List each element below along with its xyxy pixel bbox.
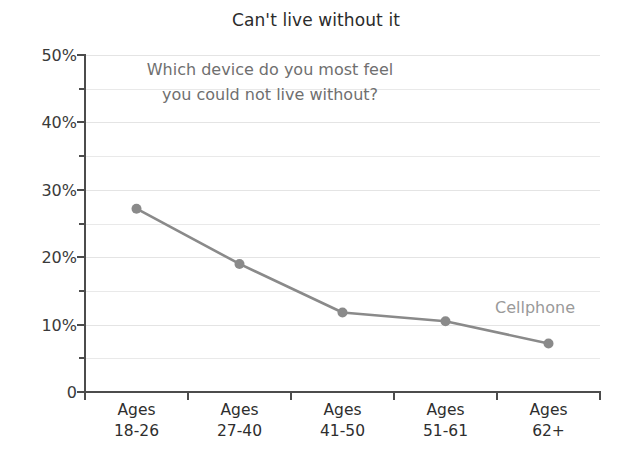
x-axis-tick [290,391,292,400]
annotation-line-1: Which device do you most feel [147,60,393,79]
y-axis-tick [77,256,85,258]
y-axis-tick [79,290,85,292]
gridline [85,358,600,359]
y-axis-label: 0 [7,383,77,402]
y-axis-label: 30% [7,180,77,199]
chart-title: Can't live without it [0,10,632,30]
x-axis-label: Ages62+ [496,400,601,442]
y-axis-tick [79,88,85,90]
y-axis-tick [79,357,85,359]
y-axis-tick [77,189,85,191]
x-axis-label-line-2: 51-61 [393,421,498,442]
x-axis-label-line-1: Ages [529,401,567,419]
x-axis-tick [187,391,189,400]
y-axis-tick [77,54,85,56]
gridline [85,122,600,123]
gridline [85,156,600,157]
chart-container: Can't live without it 010%20%30%40%50% A… [0,0,632,474]
y-axis-tick [77,324,85,326]
x-axis-label: Ages41-50 [290,400,395,442]
y-axis-tick [79,155,85,157]
gridline [85,55,600,56]
x-axis-tick [84,391,86,400]
x-axis-label-line-2: 18-26 [84,421,189,442]
x-axis-tick [496,391,498,400]
x-axis-label-line-1: Ages [220,401,258,419]
y-axis-label: 20% [7,248,77,267]
x-axis-label-line-1: Ages [323,401,361,419]
x-axis-label-line-1: Ages [117,401,155,419]
x-axis-label-line-1: Ages [426,401,464,419]
series-label-cellphone: Cellphone [495,298,575,317]
x-axis-line [84,391,601,393]
x-axis-label-line-2: 41-50 [290,421,395,442]
x-axis-label-line-2: 62+ [496,421,601,442]
y-axis-labels: 010%20%30%40%50% [0,0,77,474]
x-axis-label: Ages18-26 [84,400,189,442]
gridline [85,291,600,292]
y-axis-label: 50% [7,46,77,65]
x-axis-tick [599,391,601,400]
annotation-line-2: you could not live without? [120,83,420,108]
x-axis-label-line-2: 27-40 [187,421,292,442]
y-axis-tick [77,121,85,123]
chart-annotation: Which device do you most feel you could … [120,58,420,108]
y-axis-tick [79,223,85,225]
x-axis-label: Ages51-61 [393,400,498,442]
x-axis-tick [393,391,395,400]
gridline [85,224,600,225]
gridline [85,325,600,326]
x-axis-label: Ages27-40 [187,400,292,442]
y-axis-label: 10% [7,315,77,334]
gridline [85,190,600,191]
gridline [85,257,600,258]
y-axis-label: 40% [7,113,77,132]
